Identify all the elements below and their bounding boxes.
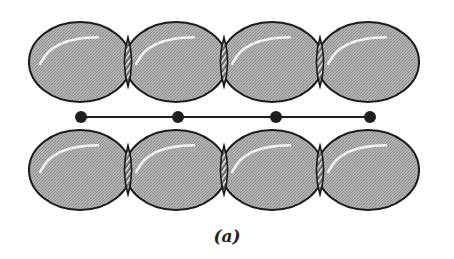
figure-caption: (a) (0, 226, 454, 246)
overlap-region (316, 145, 323, 195)
overlap-region (220, 37, 227, 87)
overlap-region (124, 37, 131, 87)
sphere (317, 22, 419, 102)
atom-node (75, 111, 87, 123)
atom-chain (75, 111, 376, 123)
sphere (29, 130, 131, 210)
atom-node (172, 111, 184, 123)
bottom-row (29, 130, 419, 210)
sphere (125, 22, 227, 102)
sphere (221, 130, 323, 210)
sphere (125, 130, 227, 210)
atom-node (270, 111, 282, 123)
overlap-region (316, 37, 323, 87)
sphere-chain-diagram (0, 0, 454, 259)
sphere (317, 130, 419, 210)
sphere (221, 22, 323, 102)
overlap-region (124, 145, 131, 195)
top-row (29, 22, 419, 102)
overlap-region (220, 145, 227, 195)
atom-node (364, 111, 376, 123)
sphere (29, 22, 131, 102)
